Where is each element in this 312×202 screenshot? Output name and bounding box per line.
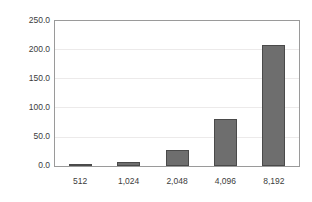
y-axis-tick-label: 50.0 <box>0 132 50 141</box>
x-axis-tick-label: 4,096 <box>215 176 236 186</box>
x-axis-tick: 512 <box>56 170 104 188</box>
gridline-50 <box>55 137 299 138</box>
y-axis: 250.0 200.0 150.0 100.0 50.0 0.0 <box>0 0 50 202</box>
y-axis-tick-label: 150.0 <box>0 74 50 83</box>
x-axis-tick-label: 2,048 <box>166 176 187 186</box>
plot-area <box>54 20 300 167</box>
x-axis-tick-label: 8,192 <box>263 176 284 186</box>
x-axis: 512 1,024 2,048 4,096 8,192 <box>54 170 300 188</box>
x-axis-tick-label: 512 <box>73 176 87 186</box>
y-axis-tick-label: 0.0 <box>0 161 50 170</box>
x-axis-tick-label: 1,024 <box>118 176 139 186</box>
y-axis-tick-label: 100.0 <box>0 103 50 112</box>
gridline-100 <box>55 107 299 108</box>
bar-chart: 250.0 200.0 150.0 100.0 50.0 0.0 <box>0 0 312 202</box>
gridlines <box>55 21 299 166</box>
x-axis-tick: 8,192 <box>250 170 298 188</box>
gridline-150 <box>55 78 299 79</box>
y-axis-tick-label: 250.0 <box>0 16 50 25</box>
y-axis-tick-label: 200.0 <box>0 45 50 54</box>
gridline-200 <box>55 49 299 50</box>
x-axis-tick: 2,048 <box>153 170 201 188</box>
x-axis-tick: 4,096 <box>201 170 249 188</box>
x-axis-tick: 1,024 <box>104 170 152 188</box>
